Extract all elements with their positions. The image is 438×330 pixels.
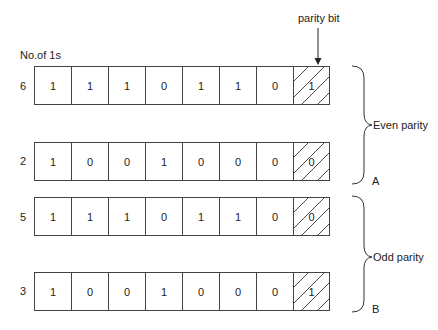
bit-row-even-2: 1 0 0 1 0 0 0 0	[34, 142, 330, 181]
bit-cell: 0	[256, 272, 293, 311]
bit-cell: 0	[219, 272, 256, 311]
even-parity-label: Even parity	[373, 119, 428, 131]
parity-bit-cell: 1	[293, 66, 330, 105]
bit-row-odd-1: 1 1 1 0 1 1 0 0	[34, 197, 330, 236]
bit-cell: 0	[71, 142, 108, 181]
ones-count: 3	[20, 285, 26, 297]
bit-cell: 1	[145, 272, 182, 311]
bit-cell: 1	[71, 66, 108, 105]
bit-cell: 0	[182, 272, 219, 311]
bit-cell: 0	[256, 197, 293, 236]
parity-bit-cell: 1	[293, 272, 330, 311]
column-header-no-of-1s: No.of 1s	[20, 49, 61, 61]
bit-row-even-1: 1 1 1 0 1 1 0 1	[34, 66, 330, 105]
parity-bit-value: 1	[308, 80, 314, 92]
group-a-label: A	[372, 175, 379, 187]
bit-row-odd-2: 1 0 0 1 0 0 0 1	[34, 272, 330, 311]
bit-cell: 1	[182, 197, 219, 236]
ones-count: 5	[20, 211, 26, 223]
bit-cell: 0	[219, 142, 256, 181]
ones-count: 6	[20, 80, 26, 92]
bit-cell: 1	[71, 197, 108, 236]
bit-cell: 1	[219, 197, 256, 236]
bit-cell: 1	[34, 272, 71, 311]
bit-cell: 0	[108, 142, 145, 181]
parity-bit-cell: 0	[293, 197, 330, 236]
group-b-label: B	[372, 303, 379, 315]
bit-cell: 1	[182, 66, 219, 105]
odd-parity-label: Odd parity	[373, 251, 424, 263]
ones-count: 2	[20, 155, 26, 167]
bit-cell: 0	[256, 142, 293, 181]
bit-cell: 1	[34, 142, 71, 181]
parity-bit-cell: 0	[293, 142, 330, 181]
bit-cell: 1	[108, 197, 145, 236]
bit-cell: 0	[108, 272, 145, 311]
bit-cell: 0	[145, 197, 182, 236]
bit-cell: 0	[145, 66, 182, 105]
bit-cell: 1	[34, 197, 71, 236]
parity-bit-value: 1	[308, 286, 314, 298]
parity-bit-label: parity bit	[298, 12, 340, 24]
bit-cell: 0	[182, 142, 219, 181]
bit-cell: 1	[219, 66, 256, 105]
bit-cell: 1	[145, 142, 182, 181]
bit-cell: 0	[256, 66, 293, 105]
parity-bit-value: 0	[308, 211, 314, 223]
bit-cell: 1	[108, 66, 145, 105]
parity-bit-value: 0	[308, 156, 314, 168]
bit-cell: 0	[71, 272, 108, 311]
bit-cell: 1	[34, 66, 71, 105]
